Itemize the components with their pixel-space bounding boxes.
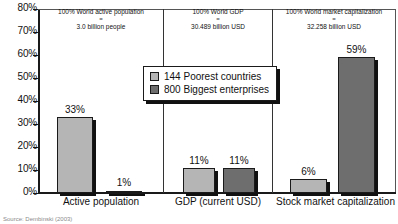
bar-fill: [290, 179, 327, 193]
bars-layer: 33% 1% 11% 11% 6% 59%: [38, 9, 396, 193]
y-tick-label: 40%: [18, 94, 37, 105]
bar-poorest-active-population: 33%: [57, 117, 93, 193]
bar-enterprises-gdp: 11%: [223, 168, 255, 193]
bar-value-label: 11%: [229, 155, 248, 166]
bar-fill: [57, 117, 93, 193]
legend: 144 Poorest countries 800 Biggest enterp…: [143, 66, 277, 101]
bar-fill: [223, 168, 255, 193]
y-tick-label: 50%: [18, 71, 37, 82]
bar-fill: [338, 57, 375, 193]
legend-label: 800 Biggest enterprises: [164, 84, 269, 95]
bar-enterprises-market-cap: 59%: [338, 57, 375, 193]
y-tick-label: 70%: [18, 25, 37, 36]
y-tick-label: 30%: [18, 117, 37, 128]
y-tick-label: 80%: [18, 2, 37, 13]
bar-value-label: 33%: [65, 104, 85, 115]
legend-label: 144 Poorest countries: [164, 71, 261, 82]
bar-poorest-market-cap: 6%: [290, 179, 327, 193]
y-tick-label: 60%: [18, 48, 37, 59]
legend-swatch-icon: [150, 72, 159, 81]
x-axis-label-active-population: Active population: [39, 196, 163, 208]
bar-chart: 0% 10% 20% 30% 40% 50% 60% 70%: [0, 0, 398, 224]
bar-value-label: 6%: [301, 166, 315, 177]
x-axis-label-gdp: GDP (current USD): [164, 196, 272, 208]
bar-fill: [106, 191, 142, 193]
source-note: Source: Dembinski (2003): [3, 215, 72, 223]
legend-item-biggest-enterprises: 800 Biggest enterprises: [150, 83, 269, 96]
legend-swatch-icon: [150, 85, 159, 94]
y-tick-label: 0%: [23, 186, 37, 197]
y-tick-label: 10%: [18, 163, 37, 174]
legend-item-poorest-countries: 144 Poorest countries: [150, 70, 269, 83]
bar-fill: [183, 168, 215, 193]
bar-value-label: 1%: [117, 177, 131, 188]
bar-value-label: 59%: [346, 44, 366, 55]
bar-value-label: 11%: [189, 155, 208, 166]
x-axis-label-market-cap: Stock market capitalization: [273, 196, 398, 208]
bar-poorest-gdp: 11%: [183, 168, 215, 193]
bar-enterprises-active-population: 1%: [106, 191, 142, 193]
y-tick-label: 20%: [18, 140, 37, 151]
